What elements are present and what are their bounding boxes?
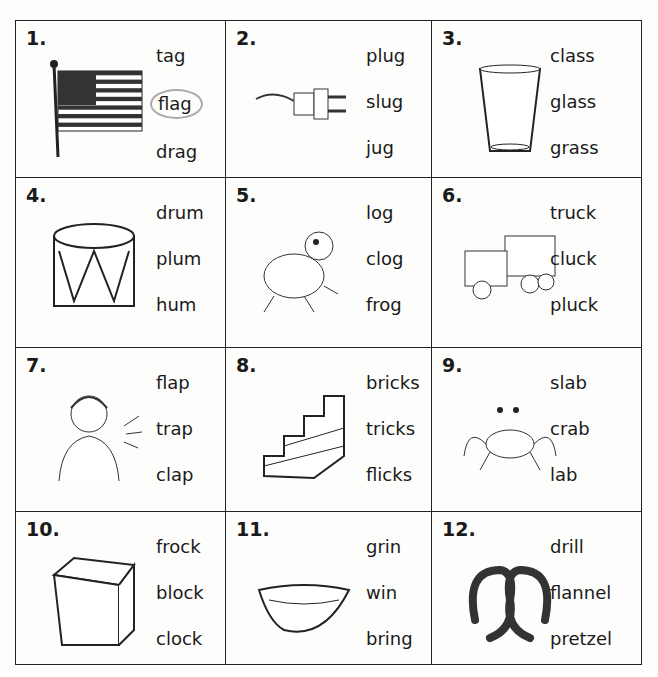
- item-number: 12.: [442, 518, 476, 540]
- word-choice[interactable]: drill: [544, 534, 618, 560]
- word-choice[interactable]: frog: [360, 292, 409, 318]
- item-number: 4.: [26, 184, 46, 206]
- word-choice[interactable]: plug: [360, 43, 411, 69]
- worksheet-cell-4: 4. drum plum hum: [16, 178, 226, 348]
- word-choice[interactable]: glass: [544, 89, 605, 115]
- item-number: 5.: [236, 184, 256, 206]
- word-choice[interactable]: plum: [150, 246, 210, 272]
- item-number: 10.: [26, 518, 60, 540]
- item-number: 3.: [442, 27, 462, 49]
- word-choice[interactable]: frock: [150, 534, 210, 560]
- word-choices: class glass grass: [550, 43, 605, 161]
- word-choice[interactable]: class: [544, 43, 605, 69]
- word-choice[interactable]: flap: [150, 370, 199, 396]
- worksheet-cell-11: 11. grin win bring: [226, 512, 432, 664]
- worksheet-cell-8: 8. bricks tricks flicks: [226, 348, 432, 512]
- word-choice[interactable]: flannel: [544, 580, 618, 606]
- word-choice[interactable]: trap: [150, 416, 199, 442]
- worksheet-grid: 1. tag flag drag 2. plug slug jug 3. cla…: [15, 20, 642, 665]
- worksheet-cell-9: 9. slab crab lab: [432, 348, 641, 512]
- word-choice[interactable]: tricks: [360, 416, 426, 442]
- word-choice[interactable]: clog: [360, 246, 409, 272]
- grin-icon: [254, 550, 354, 650]
- word-choice[interactable]: flicks: [360, 462, 426, 488]
- worksheet-cell-6: 6. truck cluck pluck: [432, 178, 641, 348]
- worksheet-cell-10: 10. frock block clock: [16, 512, 226, 664]
- word-choices: frock block clock: [156, 534, 210, 652]
- word-choice[interactable]: slab: [544, 370, 596, 396]
- frog-icon: [254, 216, 354, 316]
- item-number: 11.: [236, 518, 270, 540]
- word-choice[interactable]: jug: [360, 135, 411, 161]
- word-choice[interactable]: lab: [544, 462, 596, 488]
- item-number: 6.: [442, 184, 462, 206]
- word-choices: grin win bring: [366, 534, 419, 652]
- worksheet-cell-1: 1. tag flag drag: [16, 21, 226, 178]
- worksheet-cell-5: 5. log clog frog: [226, 178, 432, 348]
- word-choice[interactable]: slug: [360, 89, 411, 115]
- word-choice[interactable]: grass: [544, 135, 605, 161]
- word-choice[interactable]: win: [360, 580, 419, 606]
- bricks-icon: [254, 386, 354, 486]
- item-number: 7.: [26, 354, 46, 376]
- worksheet-cell-3: 3. class glass grass: [432, 21, 641, 178]
- word-choice[interactable]: log: [360, 200, 409, 226]
- word-choices: plug slug jug: [366, 43, 411, 161]
- word-choice[interactable]: pretzel: [544, 626, 618, 652]
- worksheet-cell-7: 7. flap trap clap: [16, 348, 226, 512]
- word-choices: tag flag drag: [156, 43, 203, 165]
- word-choices: drill flannel pretzel: [550, 534, 618, 652]
- item-number: 9.: [442, 354, 462, 376]
- block-icon: [44, 550, 144, 650]
- word-choices: log clog frog: [366, 200, 409, 318]
- worksheet-cell-2: 2. plug slug jug: [226, 21, 432, 178]
- word-choices: slab crab lab: [550, 370, 596, 488]
- word-choice[interactable]: hum: [150, 292, 210, 318]
- drum-icon: [44, 216, 144, 316]
- word-choice[interactable]: clock: [150, 626, 210, 652]
- word-choice[interactable]: drum: [150, 200, 210, 226]
- word-choice[interactable]: clap: [150, 462, 199, 488]
- word-choice[interactable]: drag: [150, 139, 203, 165]
- word-choice[interactable]: bring: [360, 626, 419, 652]
- word-choice[interactable]: crab: [544, 416, 596, 442]
- word-choice[interactable]: cluck: [544, 246, 604, 272]
- word-choice[interactable]: block: [150, 580, 210, 606]
- word-choice[interactable]: truck: [544, 200, 604, 226]
- item-number: 2.: [236, 27, 256, 49]
- plug-icon: [254, 59, 354, 159]
- word-choice[interactable]: pluck: [544, 292, 604, 318]
- word-choice-circled[interactable]: flag: [150, 89, 203, 119]
- word-choice[interactable]: bricks: [360, 370, 426, 396]
- worksheet-cell-12: 12. drill flannel pretzel: [432, 512, 641, 664]
- word-choices: bricks tricks flicks: [366, 370, 426, 488]
- word-choices: flap trap clap: [156, 370, 199, 488]
- item-number: 8.: [236, 354, 256, 376]
- word-choices: truck cluck pluck: [550, 200, 604, 318]
- flag-icon: [44, 59, 144, 159]
- word-choices: drum plum hum: [156, 200, 210, 318]
- word-choice[interactable]: tag: [150, 43, 203, 69]
- item-number: 1.: [26, 27, 46, 49]
- word-choice[interactable]: grin: [360, 534, 419, 560]
- clapping-woman-icon: [44, 386, 144, 486]
